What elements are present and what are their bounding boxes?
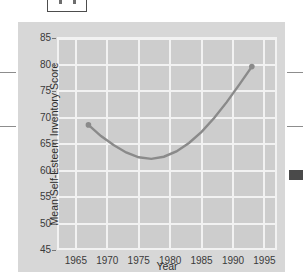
y-tick-label: 70 xyxy=(19,113,51,123)
crop-mark-right-lower xyxy=(287,126,303,127)
y-tick-label: 65 xyxy=(19,139,51,149)
data-point-start xyxy=(86,122,92,128)
y-tick-label: 75 xyxy=(19,86,51,96)
y-tick-label: 45 xyxy=(19,245,51,255)
plot-wrapper: Mean Self-Esteem Inventory Score Year 19… xyxy=(18,22,285,272)
figure-number-box xyxy=(47,0,87,12)
y-tick-mark xyxy=(52,197,56,198)
data-curve-layer xyxy=(18,22,285,272)
chart-figure: Mean Self-Esteem Inventory Score Year 19… xyxy=(18,22,285,272)
data-point-end xyxy=(249,64,255,70)
y-tick-mark xyxy=(52,91,56,92)
y-tick-mark xyxy=(52,118,56,119)
data-line xyxy=(88,67,251,159)
y-tick-label: 85 xyxy=(19,33,51,43)
y-tick-label: 55 xyxy=(19,192,51,202)
y-tick-mark xyxy=(52,65,56,66)
x-tick-label: 1995 xyxy=(244,256,284,266)
crop-mark-left-lower xyxy=(0,126,16,127)
y-tick-mark xyxy=(52,224,56,225)
y-tick-mark xyxy=(52,144,56,145)
y-tick-label: 50 xyxy=(19,219,51,229)
crop-mark-right-upper xyxy=(287,72,303,73)
y-tick-mark xyxy=(52,250,56,251)
y-tick-label: 60 xyxy=(19,166,51,176)
y-tick-mark xyxy=(52,171,56,172)
y-tick-label: 80 xyxy=(19,60,51,70)
box-tick-1-icon xyxy=(59,0,62,4)
box-tick-2-icon xyxy=(73,0,76,4)
page-edge-tab xyxy=(289,170,303,180)
y-tick-mark xyxy=(52,38,56,39)
crop-mark-left-upper xyxy=(0,72,16,73)
